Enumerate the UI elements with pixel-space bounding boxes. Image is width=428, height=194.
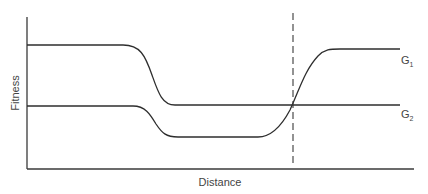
g1-label: G1 bbox=[401, 54, 414, 68]
g1-label-sub: 1 bbox=[410, 61, 414, 68]
g1-label-main: G bbox=[401, 54, 410, 66]
x-axis-label: Distance bbox=[199, 176, 242, 188]
g2-label-main: G bbox=[401, 108, 410, 120]
curve-g2 bbox=[27, 45, 400, 105]
g2-label-sub: 2 bbox=[410, 115, 414, 122]
curve-g1 bbox=[27, 49, 400, 137]
g2-label: G2 bbox=[401, 108, 414, 122]
y-axis-label: Fitness bbox=[9, 75, 21, 111]
fitness-distance-diagram: Fitness Distance G1 G2 bbox=[0, 0, 428, 194]
